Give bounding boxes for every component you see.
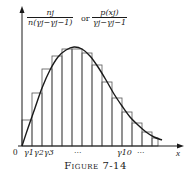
y-label-fraction-count-denominator: n(γj−γj−1) [27, 17, 73, 27]
histogram-bar [52, 56, 62, 146]
histogram-bar [152, 138, 158, 146]
histogram-bar [102, 82, 112, 146]
y-label-fraction-count-numerator: nj [45, 8, 55, 17]
y-label-fraction-probability: p(xj) γj−γj−1 [92, 8, 127, 27]
origin-label: 0 [13, 147, 18, 157]
y-label-fraction-probability-numerator: p(xj) [99, 8, 119, 17]
histogram-bar [72, 49, 82, 146]
histogram-bar [62, 49, 72, 146]
histogram-bar [112, 98, 122, 146]
x-tick-ellipsis-1: ··· [74, 148, 82, 157]
x-tick-gamma-3: γ3 [44, 148, 54, 157]
histogram-bar [142, 132, 152, 146]
x-tick-ellipsis-2: ··· [137, 148, 145, 157]
histogram-bar [82, 53, 92, 146]
x-axis-label: x [176, 148, 180, 158]
histogram-bars [22, 49, 158, 146]
y-axis-arrow-icon [20, 6, 25, 13]
y-label-fraction-probability-denominator: γj−γj−1 [92, 17, 127, 27]
x-tick-gamma-2: γ2 [34, 148, 44, 157]
y-label-or: or [81, 14, 90, 23]
y-label-fraction-count: nj n(γj−γj−1) [27, 8, 73, 27]
x-tick-gamma-1: γ1 [24, 148, 34, 157]
histogram-bar [42, 69, 52, 146]
histogram-bar [92, 65, 102, 146]
figure-caption: Figure 7-14 [0, 160, 191, 171]
x-tick-gamma-10: γ10 [117, 148, 132, 157]
